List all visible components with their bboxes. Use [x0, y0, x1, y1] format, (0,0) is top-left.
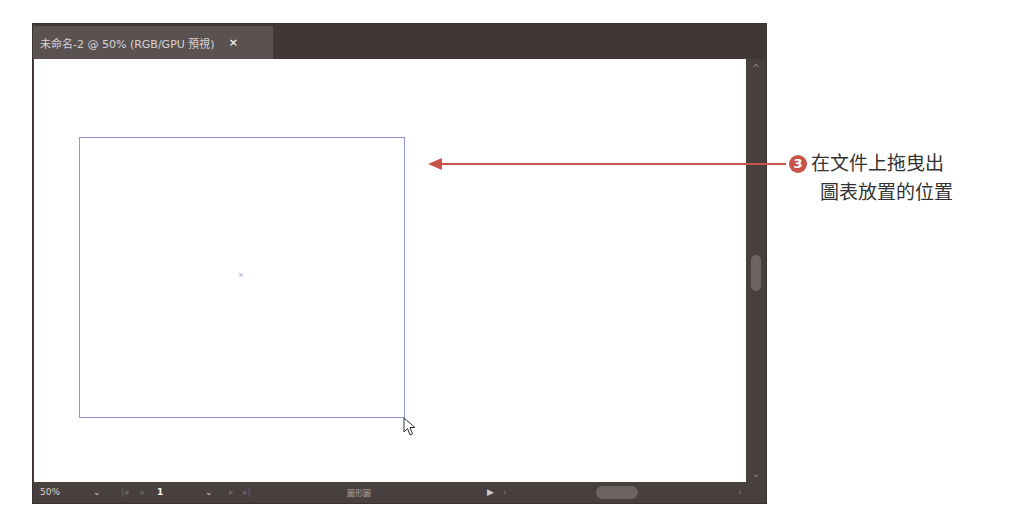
tab-bar: 未命名-2 @ 50% (RGB/GPU 預視) × — [33, 24, 766, 59]
zoom-level-input[interactable]: 50% — [40, 487, 60, 497]
scroll-down-icon[interactable]: ⌄ — [746, 468, 766, 479]
vertical-scroll-thumb[interactable] — [751, 255, 761, 291]
step-annotation: 3在文件上拖曳出 圖表放置的位置 — [789, 149, 953, 207]
scroll-left-icon[interactable]: ‹ — [503, 487, 507, 497]
horizontal-scroll-thumb[interactable] — [596, 486, 638, 499]
scroll-right-icon[interactable]: › — [738, 487, 742, 497]
document-tab[interactable]: 未命名-2 @ 50% (RGB/GPU 預視) × — [33, 26, 273, 59]
vertical-scrollbar[interactable]: ^ ⌄ — [746, 59, 766, 483]
artboard-dropdown-chevron-icon[interactable]: ⌄ — [205, 487, 213, 497]
step-number-badge: 3 — [789, 155, 807, 173]
next-artboard-icon[interactable]: ▸ — [229, 487, 234, 497]
last-artboard-icon[interactable]: ▸| — [243, 487, 251, 497]
artboard-number-input[interactable]: 1 — [157, 487, 163, 497]
center-point-icon: × — [238, 272, 244, 279]
first-artboard-icon[interactable]: |◂ — [121, 487, 129, 497]
scroll-up-icon[interactable]: ^ — [746, 63, 766, 74]
current-tool-label: 圖形圖 — [347, 487, 371, 498]
mouse-pointer-icon — [403, 417, 417, 441]
previous-artboard-icon[interactable]: ◂ — [139, 487, 144, 497]
status-menu-play-icon[interactable]: ▶ — [487, 487, 494, 497]
callout-arrow-line — [440, 163, 786, 165]
annotation-line-2: 圖表放置的位置 — [789, 178, 953, 207]
close-icon[interactable]: × — [229, 36, 238, 49]
zoom-dropdown-chevron-icon[interactable]: ⌄ — [93, 487, 101, 497]
document-tab-title: 未命名-2 @ 50% (RGB/GPU 預視) — [40, 35, 215, 51]
status-bar: 50% ⌄ |◂ ◂ 1 ⌄ ▸ ▸| 圖形圖 ▶ ‹ › — [33, 482, 766, 503]
annotation-line-1: 在文件上拖曳出 — [811, 152, 944, 174]
